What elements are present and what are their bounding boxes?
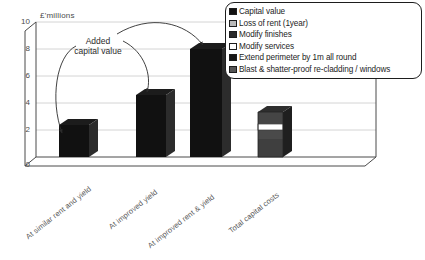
legend-item-modify-services[interactable]: Modify services [229, 41, 417, 53]
y-tick-2: 2 [14, 126, 30, 134]
y-tick-8: 8 [14, 45, 30, 53]
legend-label: Capital value [239, 7, 285, 16]
legend-swatch-icon [229, 20, 237, 27]
legend-item-loss-of-rent[interactable]: Loss of rent (1year) [229, 18, 417, 30]
legend-swatch-icon [229, 54, 237, 61]
y-tick-10: 10 [14, 18, 30, 26]
bar-at-similar-rent-and-yield [59, 119, 98, 157]
y-tick-6: 6 [14, 72, 30, 80]
y-tick-4: 4 [14, 99, 30, 107]
legend-label: Extend perimeter by 1m all round [239, 53, 356, 62]
legend-label: Loss of rent (1year) [239, 19, 308, 28]
legend-swatch-icon [229, 8, 237, 15]
chart-legend: Capital value Loss of rent (1year) Modif… [225, 2, 422, 79]
bar-total-capital-costs [258, 106, 292, 157]
legend-label: Modify finishes [239, 30, 292, 39]
y-tick-0: 0 [14, 161, 30, 169]
legend-item-modify-finishes[interactable]: Modify finishes [229, 29, 417, 41]
legend-item-blast-recladding[interactable]: Blast & shatter-proof re-cladding / wind… [229, 64, 417, 76]
legend-swatch-icon [229, 31, 237, 38]
bar-at-improved-yield [136, 89, 175, 157]
annotation-added-capital-value: Added capital value [67, 36, 129, 56]
legend-swatch-icon [229, 66, 237, 73]
legend-label: Blast & shatter-proof re-cladding / wind… [239, 65, 390, 74]
annotation-line-1: Added [67, 36, 129, 46]
annotation-line-2: capital value [67, 46, 129, 56]
legend-label: Modify services [239, 42, 294, 51]
legend-swatch-icon [229, 43, 237, 50]
legend-item-extend-perimeter[interactable]: Extend perimeter by 1m all round [229, 52, 417, 64]
legend-item-capital-value[interactable]: Capital value [229, 6, 417, 18]
chart-figure: £'millions [0, 0, 425, 260]
